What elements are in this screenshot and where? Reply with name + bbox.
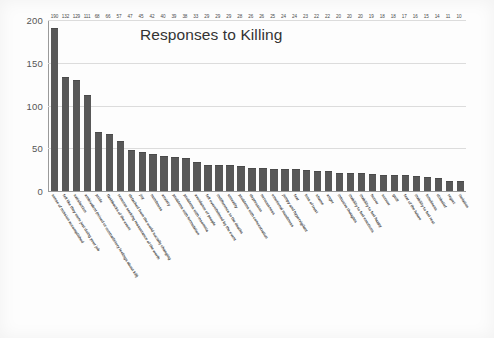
- x-axis-tick-label: joy: [139, 193, 146, 200]
- bar-item[interactable]: 22: [312, 20, 323, 191]
- bar-value-label: 42: [149, 14, 154, 19]
- bar-item[interactable]: 24: [290, 20, 301, 191]
- bar-item[interactable]: 47: [126, 20, 137, 191]
- y-axis-tick-label: 150: [27, 57, 43, 68]
- bar[interactable]: 10: [457, 181, 464, 191]
- bar-item[interactable]: 33: [192, 20, 203, 191]
- bar[interactable]: 132: [62, 77, 69, 191]
- bar[interactable]: 15: [424, 177, 431, 191]
- bar-value-label: 129: [73, 14, 80, 19]
- bar[interactable]: 42: [149, 154, 156, 191]
- bar-item[interactable]: 25: [268, 20, 279, 191]
- bar-item[interactable]: 38: [181, 20, 192, 191]
- bar[interactable]: 68: [95, 132, 102, 191]
- x-axis-tick-label: sorrow: [381, 193, 392, 206]
- bar-item[interactable]: 22: [323, 20, 334, 191]
- bar-item[interactable]: 10: [455, 20, 466, 191]
- bar-item[interactable]: 24: [279, 20, 290, 191]
- bar-item[interactable]: 29: [203, 20, 214, 191]
- bar-item[interactable]: 132: [60, 20, 71, 191]
- bar[interactable]: 47: [128, 150, 135, 191]
- bar[interactable]: 33: [193, 162, 200, 191]
- bar[interactable]: 16: [413, 176, 420, 191]
- bar-value-label: 22: [325, 14, 330, 19]
- bar-item[interactable]: 57: [115, 20, 126, 191]
- bar[interactable]: 40: [160, 156, 167, 191]
- plot-area: 050100150200 190132129111686657474542403…: [48, 20, 466, 192]
- bar[interactable]: 38: [182, 158, 189, 191]
- bar[interactable]: 19: [369, 174, 376, 191]
- bar-item[interactable]: 129: [71, 20, 82, 191]
- bar-item[interactable]: 20: [334, 20, 345, 191]
- bar-value-label: 28: [237, 14, 242, 19]
- bar[interactable]: 29: [204, 165, 211, 191]
- bar[interactable]: 23: [303, 170, 310, 191]
- bar-value-label: 29: [226, 14, 231, 19]
- bar-item[interactable]: 68: [93, 20, 104, 191]
- bar[interactable]: 57: [117, 141, 124, 191]
- bar[interactable]: 17: [402, 175, 409, 191]
- bar[interactable]: 22: [325, 171, 332, 191]
- bar-item[interactable]: 18: [378, 20, 389, 191]
- bar-value-label: 18: [391, 14, 396, 19]
- bar-item[interactable]: 20: [356, 20, 367, 191]
- bar[interactable]: 28: [237, 166, 244, 191]
- bar[interactable]: 111: [84, 95, 91, 191]
- bar-value-label: 18: [380, 14, 385, 19]
- bar-item[interactable]: 66: [104, 20, 115, 191]
- bar[interactable]: 18: [380, 175, 387, 191]
- y-axis-tick-label: 50: [32, 143, 43, 154]
- bar[interactable]: 26: [259, 168, 266, 191]
- bar-item[interactable]: 28: [235, 20, 246, 191]
- bar[interactable]: 129: [73, 80, 80, 191]
- bar-item[interactable]: 15: [422, 20, 433, 191]
- bar-item[interactable]: 40: [159, 20, 170, 191]
- bar[interactable]: 26: [248, 168, 255, 191]
- bar-value-label: 24: [292, 14, 297, 19]
- bar-item[interactable]: 111: [82, 20, 93, 191]
- bar[interactable]: 39: [171, 157, 178, 191]
- bar-item[interactable]: 29: [214, 20, 225, 191]
- bar-value-label: 33: [193, 14, 198, 19]
- bar[interactable]: 190: [51, 28, 58, 191]
- bar-item[interactable]: 39: [170, 20, 181, 191]
- bar-item[interactable]: 14: [433, 20, 444, 191]
- bar-value-label: 25: [270, 14, 275, 19]
- bar-item[interactable]: 29: [225, 20, 236, 191]
- bar-item[interactable]: 26: [246, 20, 257, 191]
- bar-item[interactable]: 26: [257, 20, 268, 191]
- bar-item[interactable]: 45: [137, 20, 148, 191]
- bar[interactable]: 20: [347, 173, 354, 191]
- bar-item[interactable]: 11: [444, 20, 455, 191]
- y-axis-tick-label: 100: [27, 100, 43, 111]
- bar[interactable]: 14: [435, 178, 442, 191]
- x-axis-tick-label: fear: [293, 193, 301, 202]
- bar-item[interactable]: 23: [301, 20, 312, 191]
- bar[interactable]: 66: [106, 134, 113, 191]
- bar-item[interactable]: 42: [148, 20, 159, 191]
- bar[interactable]: 20: [336, 173, 343, 191]
- bar[interactable]: 29: [215, 165, 222, 191]
- bar[interactable]: 24: [281, 169, 288, 191]
- bar-item[interactable]: 20: [345, 20, 356, 191]
- bar[interactable]: 20: [358, 173, 365, 191]
- bar-value-label: 66: [106, 14, 111, 19]
- bar[interactable]: 45: [139, 152, 146, 191]
- bar-item[interactable]: 17: [400, 20, 411, 191]
- bar[interactable]: 11: [446, 181, 453, 191]
- bar[interactable]: 22: [314, 171, 321, 191]
- bar-item[interactable]: 190: [49, 20, 60, 191]
- bar-item[interactable]: 16: [411, 20, 422, 191]
- bar[interactable]: 29: [226, 165, 233, 191]
- bar[interactable]: 18: [391, 175, 398, 191]
- bar-item[interactable]: 19: [367, 20, 378, 191]
- bar-value-label: 16: [413, 14, 418, 19]
- x-axis-tick-label: anger: [326, 193, 336, 204]
- bar-value-label: 20: [358, 14, 363, 19]
- bar-value-label: 26: [259, 14, 264, 19]
- x-axis-tick-label: regret: [447, 193, 457, 205]
- bar-item[interactable]: 18: [389, 20, 400, 191]
- bar-series: 1901321291116866574745424039383329292928…: [49, 20, 466, 191]
- bar[interactable]: 25: [270, 169, 277, 191]
- bar[interactable]: 24: [292, 169, 299, 191]
